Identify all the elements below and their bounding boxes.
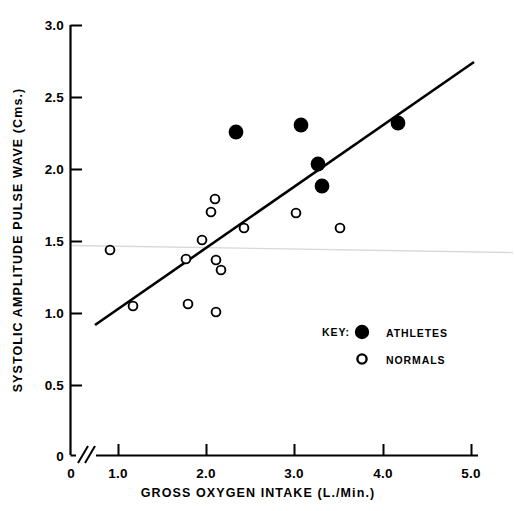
x-tick-label: 0 [67,466,75,481]
data-point-normal [212,308,221,317]
legend-label-athletes: ATHLETES [386,327,448,339]
data-point-normal [184,300,193,309]
legend-key-label: KEY: [322,326,350,338]
legend-label-normals: NORMALS [386,354,445,366]
data-point-normal [211,195,220,204]
y-tick-label: 1.5 [45,234,65,249]
y-tick-label-zero: 0 [56,449,64,464]
x-tick-label: 2.0 [196,466,215,481]
data-point-athlete [294,118,309,133]
axis-lines [71,25,479,456]
x-tick-label: 4.0 [373,466,392,481]
x-tick-labels: 0 1.0 2.0 3.0 4.0 5.0 [67,466,481,481]
x-axis-break-marker [76,446,96,464]
x-axis-title: GROSS OXYGEN INTAKE (L./Min.) [141,486,375,500]
data-point-athlete [311,157,326,172]
legend: KEY: ATHLETES NORMALS [322,325,448,366]
data-point-athlete [229,125,244,140]
data-point-normal [106,246,115,255]
y-tick-label: 3.0 [45,18,64,33]
x-tick-label: 1.0 [108,466,127,481]
y-axis-ticks [71,26,83,386]
y-tick-label: 2.0 [45,162,64,177]
data-point-normal [240,224,249,233]
series-normals [106,195,345,317]
scatter-plot-canvas: 3.0 2.5 2.0 1.5 1.0 0.5 0 0 1.0 2.0 3.0 … [0,0,515,511]
data-point-normal [207,208,216,217]
y-tick-label: 0.5 [45,378,65,393]
y-tick-label: 1.0 [45,306,64,321]
x-tick-label: 5.0 [461,466,480,481]
data-point-normal [182,255,191,264]
data-point-normal [292,209,301,218]
legend-filled-circle-icon [355,325,369,339]
trend-line [95,62,474,325]
data-point-normal [217,266,226,275]
faint-horizontal-reference-line [72,246,513,253]
data-point-normal [129,302,138,311]
data-point-normal [198,236,207,245]
data-point-athlete [391,116,406,131]
data-point-athlete [315,179,330,194]
y-tick-labels: 3.0 2.5 2.0 1.5 1.0 0.5 0 [45,18,65,464]
x-tick-label: 3.0 [284,466,303,481]
y-tick-label: 2.5 [45,90,65,105]
x-axis-ticks [119,444,472,456]
legend-open-circle-icon [357,354,366,363]
chart-figure: 3.0 2.5 2.0 1.5 1.0 0.5 0 0 1.0 2.0 3.0 … [0,0,515,511]
data-point-normal [212,256,221,265]
y-axis-title: SYSTOLIC AMPLITUDE PULSE WAVE (Cms.) [11,88,25,393]
data-point-normal [336,224,345,233]
